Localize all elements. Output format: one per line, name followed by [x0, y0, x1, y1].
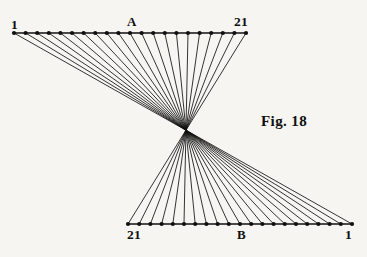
point-marker [116, 31, 120, 35]
point-marker [171, 222, 175, 226]
point-marker [244, 31, 248, 35]
point-marker [339, 222, 343, 226]
point-marker [82, 31, 86, 35]
label-row-b-end: 1 [345, 228, 352, 242]
point-marker [260, 222, 264, 226]
point-marker [24, 31, 28, 35]
point-marker [148, 222, 152, 226]
point-marker [105, 31, 109, 35]
point-marker [209, 31, 213, 35]
point-marker [328, 222, 332, 226]
point-marker [249, 222, 253, 226]
point-marker [232, 31, 236, 35]
point-marker [160, 222, 164, 226]
point-marker [316, 222, 320, 226]
point-marker [140, 31, 144, 35]
point-marker [182, 222, 186, 226]
point-marker [227, 222, 231, 226]
figure-caption: Fig. 18 [261, 114, 307, 129]
point-marker [126, 222, 130, 226]
label-row-a-end: 21 [234, 15, 248, 29]
point-marker [137, 222, 141, 226]
point-marker [35, 31, 39, 35]
point-marker [198, 31, 202, 35]
point-marker [294, 222, 298, 226]
point-marker [305, 222, 309, 226]
point-marker [58, 31, 62, 35]
figure-canvas: 1 A 21 21 B 1 Fig. 18 [0, 0, 367, 257]
point-marker [93, 31, 97, 35]
point-marker [283, 222, 287, 226]
point-marker [163, 31, 167, 35]
label-row-a-start: 1 [11, 18, 18, 32]
point-marker [70, 31, 74, 35]
point-marker [350, 222, 354, 226]
point-marker [221, 31, 225, 35]
point-marker [238, 222, 242, 226]
point-marker [174, 31, 178, 35]
label-row-b-start: 21 [127, 228, 141, 242]
point-marker [47, 31, 51, 35]
point-marker [128, 31, 132, 35]
label-row-b-midpoint: B [237, 228, 246, 241]
label-row-a-midpoint: A [127, 15, 137, 28]
point-marker [204, 222, 208, 226]
point-marker [193, 222, 197, 226]
point-marker [272, 222, 276, 226]
point-marker [151, 31, 155, 35]
point-marker [216, 222, 220, 226]
string-art-svg [0, 0, 367, 257]
point-marker [186, 31, 190, 35]
